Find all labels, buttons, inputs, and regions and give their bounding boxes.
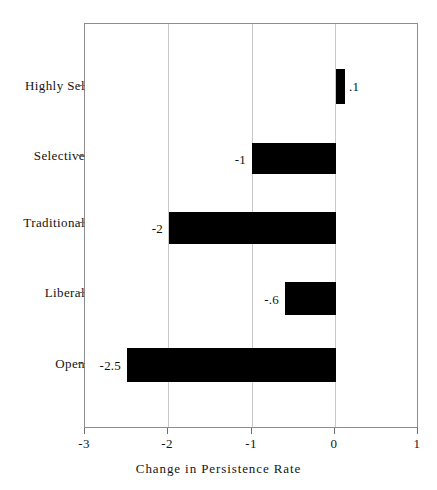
x-tick-label--3: -3 (64, 437, 104, 451)
x-tick-label--1: -1 (231, 437, 271, 451)
y-tick-mark-liberal (78, 292, 85, 293)
plot-area: .1 -1 -2 -.6 -2.5 (84, 23, 418, 428)
x-tick-mark--3 (84, 428, 85, 434)
bar-highly-sel (336, 69, 345, 104)
y-tick-mark-highly-sel (78, 85, 85, 86)
y-tick-label-liberal: Liberal (7, 286, 85, 299)
bar-traditional (169, 212, 336, 244)
bar-label-liberal: -.6 (241, 293, 279, 306)
x-tick-mark-0 (334, 428, 335, 434)
bar-liberal (285, 282, 336, 315)
y-tick-label-highly-sel: Highly Sel (7, 79, 85, 92)
bar-label-open: -2.5 (81, 359, 121, 372)
x-tick-mark--2 (167, 428, 168, 434)
bar-label-highly-sel: .1 (349, 80, 359, 93)
bar-label-selective: -1 (212, 153, 246, 166)
y-axis: Highly Sel Selective Traditional Liberal… (0, 0, 85, 490)
y-tick-mark-selective (78, 155, 85, 156)
y-tick-label-selective: Selective (7, 149, 85, 162)
bar-open (127, 348, 336, 382)
y-tick-label-traditional: Traditional (7, 216, 85, 229)
bar-selective (252, 143, 336, 174)
bar-label-traditional: -2 (129, 222, 163, 235)
x-tick-mark--1 (251, 428, 252, 434)
y-tick-label-open: Open (7, 357, 85, 370)
x-tick-label-0: 0 (314, 437, 354, 451)
x-tick-label-1: 1 (397, 437, 437, 451)
x-tick-label--2: -2 (147, 437, 187, 451)
x-tick-mark-1 (417, 428, 418, 434)
y-tick-mark-traditional (78, 222, 85, 223)
y-tick-mark-open (78, 363, 85, 364)
x-axis-title: Change in Persistence Rate (0, 462, 437, 476)
